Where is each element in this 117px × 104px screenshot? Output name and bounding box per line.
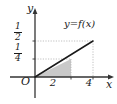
y-axis-arrowhead [33, 8, 38, 14]
y-tick-label-one-quarter: 1 4 [14, 43, 22, 63]
y-axis-label: y [27, 3, 33, 14]
fraction-denominator: 4 [14, 54, 22, 63]
function-curve-label: y=f(x) [64, 19, 95, 29]
x-tick-label-4: 4 [86, 78, 92, 88]
fraction-numerator: 1 [14, 22, 22, 31]
x-tick-label-2: 2 [50, 78, 56, 88]
x-axis-label: x [106, 79, 112, 90]
origin-label: O [21, 76, 30, 87]
fraction-numerator: 1 [14, 43, 22, 52]
fraction-denominator: 2 [14, 33, 22, 42]
linear-function-graph: y x O y=f(x) 2 4 1 2 1 4 [0, 0, 117, 104]
y-tick-label-one-half: 1 2 [14, 22, 22, 42]
